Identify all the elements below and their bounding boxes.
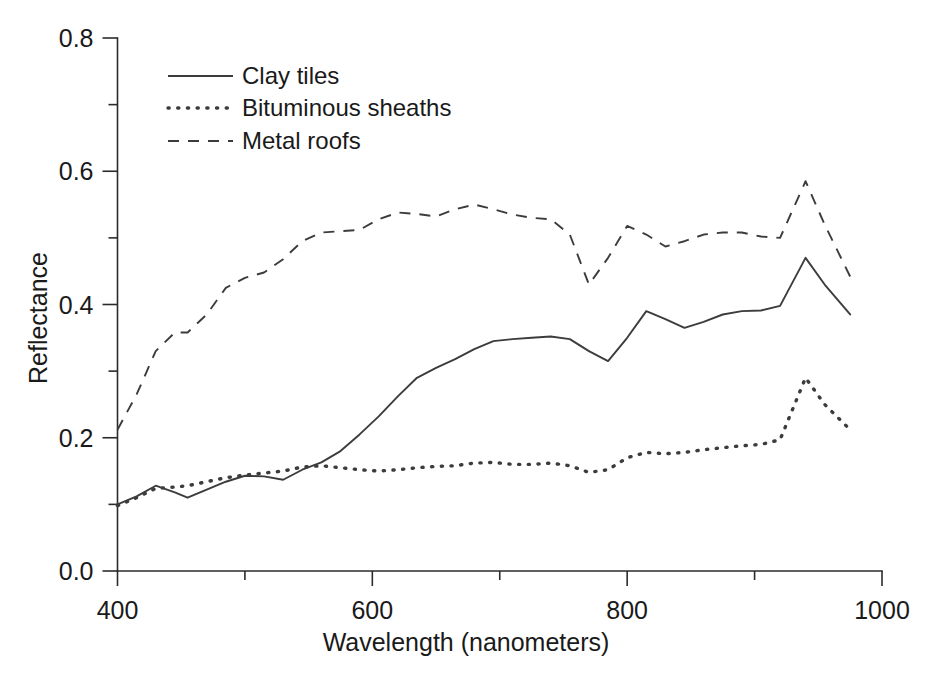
legend-label: Bituminous sheaths [242,94,451,121]
data-series-group [118,181,851,505]
x-axis-tick-labels: 4006008001000 [97,596,910,624]
y-tick-label: 0.0 [59,557,94,585]
legend-item-clay-tiles: Clay tiles [168,62,339,89]
legend-item-bituminous-sheaths: Bituminous sheaths [168,94,451,121]
y-tick-label: 0.8 [59,24,94,52]
chart-canvas: 0.00.20.40.60.8 4006008001000 Wavelength… [0,0,932,679]
legend-label: Metal roofs [242,127,361,154]
legend-item-metal-roofs: Metal roofs [168,127,361,154]
y-tick-label: 0.6 [59,157,94,185]
x-tick-label: 800 [606,596,648,624]
y-axis-tick-labels: 0.00.20.40.60.8 [59,24,94,585]
x-axis-title: Wavelength (nanometers) [323,628,610,656]
y-tick-label: 0.4 [59,291,94,319]
series-line-bituminous-sheaths [118,378,851,506]
x-tick-label: 400 [97,596,139,624]
y-tick-label: 0.2 [59,424,94,452]
y-axis-major-ticks [103,38,118,571]
y-axis-title: Reflectance [24,252,52,384]
series-line-clay-tiles [118,258,851,505]
reflectance-spectra-figure: 0.00.20.40.60.8 4006008001000 Wavelength… [0,0,932,679]
series-line-metal-roofs [118,181,851,430]
chart-legend: Clay tilesBituminous sheathsMetal roofs [168,62,451,154]
x-tick-label: 600 [351,596,393,624]
legend-label: Clay tiles [242,62,339,89]
x-tick-label: 1000 [854,596,910,624]
x-axis-minor-ticks [245,571,755,580]
